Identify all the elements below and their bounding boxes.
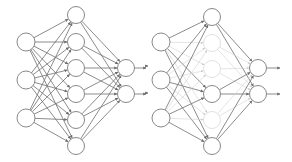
hidden-neuron bbox=[68, 86, 85, 103]
connection-edge bbox=[35, 70, 67, 78]
connection-edge bbox=[82, 21, 120, 61]
standard-network bbox=[17, 7, 146, 155]
connection-edge bbox=[169, 21, 204, 38]
hidden-neuron bbox=[68, 138, 85, 155]
hidden-neuron bbox=[68, 7, 85, 24]
input-neuron bbox=[17, 109, 35, 127]
connection-edge bbox=[81, 22, 122, 86]
connection-edge bbox=[82, 100, 120, 139]
input-neuron bbox=[152, 109, 170, 127]
dropped-connection-edge bbox=[219, 47, 250, 64]
input-neuron bbox=[17, 71, 35, 89]
dropout-network bbox=[145, 9, 280, 155]
output-neuron bbox=[250, 86, 267, 103]
neural-network-dropout-diagram bbox=[0, 0, 292, 162]
connection-edge bbox=[169, 122, 204, 141]
hidden-neuron bbox=[68, 112, 85, 129]
hidden-neuron bbox=[68, 60, 85, 77]
connection-edge bbox=[35, 118, 67, 119]
input-neuron bbox=[152, 33, 170, 51]
connection-edge bbox=[34, 19, 68, 37]
connection-edge bbox=[81, 76, 122, 139]
input-neuron bbox=[152, 71, 170, 89]
dropped-connection-edge bbox=[170, 118, 203, 119]
hidden-neuron bbox=[204, 9, 221, 26]
connection-edge bbox=[216, 76, 253, 139]
nodes bbox=[152, 9, 267, 155]
output-neuron bbox=[250, 60, 267, 77]
dropped-connection-edge bbox=[220, 68, 249, 69]
input-neuron bbox=[17, 33, 35, 51]
dropped-connection-edge bbox=[170, 42, 203, 43]
dropped-hidden-neuron bbox=[204, 35, 221, 52]
connection-edge bbox=[34, 122, 68, 141]
hidden-neuron bbox=[68, 34, 85, 51]
dropped-hidden-neuron bbox=[204, 112, 221, 129]
nodes bbox=[17, 7, 135, 155]
output-neuron bbox=[118, 60, 135, 77]
connection-edge bbox=[167, 24, 207, 73]
dropped-connection-edge bbox=[170, 71, 203, 78]
edges bbox=[30, 19, 146, 141]
output-neuron bbox=[118, 86, 135, 103]
hidden-neuron bbox=[204, 138, 221, 155]
hidden-neuron bbox=[204, 86, 221, 103]
dropped-hidden-neuron bbox=[204, 61, 221, 78]
